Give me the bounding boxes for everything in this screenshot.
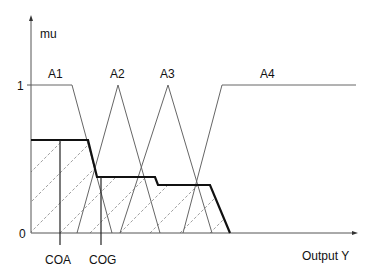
membership-a2 — [77, 85, 160, 233]
tick-zero-label: 0 — [19, 227, 26, 241]
set-label-a4: A4 — [260, 67, 275, 81]
x-axis-label: Output Y — [302, 249, 349, 263]
x-axis-arrow-icon — [352, 231, 358, 235]
set-label-a2: A2 — [110, 67, 125, 81]
set-label-a1: A1 — [48, 67, 63, 81]
aggregated-output-curve — [31, 140, 230, 233]
cog-label: COG — [89, 253, 116, 267]
membership-a3 — [120, 85, 212, 233]
membership-a1 — [31, 85, 112, 233]
aggregated-output-hatch — [0, 113, 330, 233]
coa-label: COA — [45, 253, 71, 267]
tick-one-label: 1 — [17, 79, 24, 93]
set-label-a3: A3 — [160, 67, 175, 81]
y-axis-label: mu — [40, 27, 57, 41]
fuzzy-defuzzification-diagram: mu 1 0 A1 A2 A3 A4 Output Y COA COG — [0, 0, 376, 280]
y-axis-arrow-icon — [29, 15, 33, 21]
membership-a4 — [183, 85, 356, 233]
